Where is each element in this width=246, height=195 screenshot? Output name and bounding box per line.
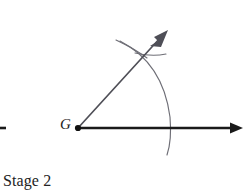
minor-arc-left xyxy=(116,40,147,58)
vertex-label-g: G xyxy=(60,117,71,132)
diagonal-arrowhead-icon xyxy=(150,30,168,47)
horizontal-arrowhead-icon xyxy=(230,123,243,134)
construction-diagram xyxy=(0,0,246,195)
geometry-figure: G Stage 2 xyxy=(0,0,246,195)
diagonal-ray xyxy=(78,37,161,128)
major-arc xyxy=(120,41,171,155)
vertex-point xyxy=(75,125,81,131)
stage-caption: Stage 2 xyxy=(3,172,51,190)
